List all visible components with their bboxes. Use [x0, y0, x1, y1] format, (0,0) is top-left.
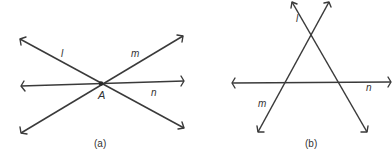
diagram-canvas [0, 0, 392, 153]
label-m-b: m [258, 99, 266, 109]
label-m-a: m [131, 49, 139, 59]
line-m-b [258, 2, 329, 132]
label-l-a: l [61, 49, 63, 59]
caption-a: (a) [94, 139, 106, 149]
caption-b: (b) [305, 139, 317, 149]
label-point-a: A [98, 90, 105, 101]
label-l-b: l [296, 14, 298, 24]
label-n-b: n [366, 83, 372, 93]
panel-b [232, 2, 391, 132]
line-l-b [292, 2, 367, 132]
panel-a [20, 35, 184, 134]
label-n-a: n [151, 88, 157, 98]
point-a-dot [99, 81, 104, 86]
